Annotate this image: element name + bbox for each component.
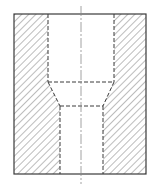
- right-section-hatch: [103, 14, 146, 174]
- section-drawing: [0, 0, 153, 186]
- left-section-hatch: [14, 14, 60, 174]
